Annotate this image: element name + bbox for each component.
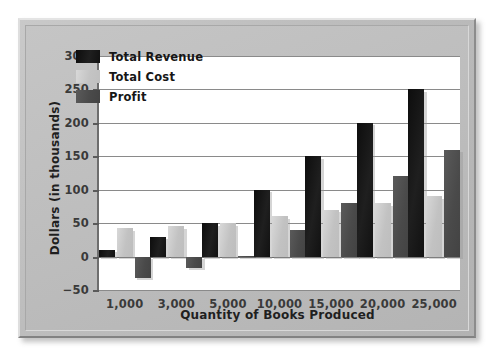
bar-profit-10000[interactable] <box>290 230 306 257</box>
legend-swatch-icon <box>76 70 100 83</box>
bar-total-revenue-15000[interactable] <box>305 156 321 256</box>
gridline <box>99 290 460 291</box>
bar-profit-15000[interactable] <box>341 203 357 256</box>
legend-swatch-icon <box>76 90 100 103</box>
y-axis-tick-label: 200 <box>64 116 89 130</box>
bar-total-revenue-20000[interactable] <box>357 123 373 257</box>
y-axis-tick <box>93 290 99 292</box>
legend-label: Total Revenue <box>109 50 203 64</box>
bar-total-cost-25000[interactable] <box>426 196 442 256</box>
bar-profit-1000[interactable] <box>135 257 151 278</box>
y-axis-tick-label: 100 <box>64 183 89 197</box>
legend-label: Profit <box>109 90 147 104</box>
bar-shadow <box>240 258 256 259</box>
legend-item-total-revenue[interactable]: Total Revenue <box>76 48 203 65</box>
legend-item-profit[interactable]: Profit <box>76 88 203 105</box>
y-axis-title: Dollars (in thousands) <box>48 83 62 273</box>
bar-total-revenue-3000[interactable] <box>150 237 166 257</box>
bar-total-revenue-5000[interactable] <box>202 223 218 256</box>
bar-total-revenue-25000[interactable] <box>408 89 424 256</box>
bar-total-cost-10000[interactable] <box>272 216 288 256</box>
gridline <box>99 156 460 157</box>
bar-total-cost-5000[interactable] <box>220 223 236 256</box>
bar-profit-25000[interactable] <box>444 150 460 257</box>
bar-profit-20000[interactable] <box>393 176 409 256</box>
legend-item-total-cost[interactable]: Total Cost <box>76 68 203 85</box>
y-axis-tick-label: 50 <box>73 216 89 230</box>
y-axis-tick <box>93 123 99 125</box>
figure-inner-bevel: Dollars (in thousands) 30025020015010050… <box>25 25 469 331</box>
x-axis-title: Quantity of Books Produced <box>97 308 458 322</box>
y-axis-tick <box>93 156 99 158</box>
bar-total-revenue-10000[interactable] <box>254 190 270 257</box>
bar-total-cost-3000[interactable] <box>168 226 184 256</box>
bar-total-cost-20000[interactable] <box>375 203 391 256</box>
y-axis-tick-label: 150 <box>64 149 89 163</box>
y-axis-tick <box>93 190 99 192</box>
chart-legend: Total RevenueTotal CostProfit <box>76 48 203 108</box>
y-axis-tick-label: 0 <box>81 250 89 264</box>
y-axis-tick-label: −50 <box>63 283 89 297</box>
figure-frame: Dollars (in thousands) 30025020015010050… <box>18 18 476 338</box>
bar-total-cost-1000[interactable] <box>117 228 133 256</box>
chart-screenshot: Dollars (in thousands) 30025020015010050… <box>0 0 500 363</box>
y-axis-tick <box>93 223 99 225</box>
gridline <box>99 123 460 124</box>
legend-label: Total Cost <box>109 70 175 84</box>
legend-swatch-icon <box>76 50 100 63</box>
bar-total-revenue-1000[interactable] <box>99 250 115 257</box>
bar-total-cost-15000[interactable] <box>323 210 339 257</box>
bar-profit-3000[interactable] <box>186 257 202 268</box>
bar-profit-5000[interactable] <box>238 256 254 257</box>
y-axis-tick <box>93 257 99 259</box>
